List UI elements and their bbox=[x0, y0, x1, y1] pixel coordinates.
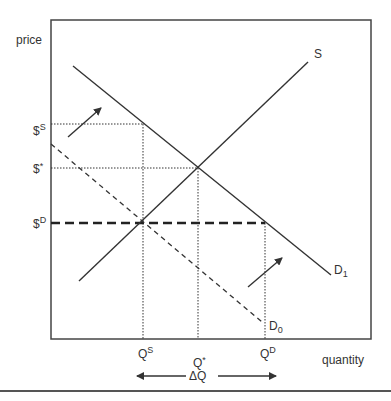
plot-frame bbox=[51, 20, 371, 339]
x-axis-label: quantity bbox=[322, 353, 364, 367]
y-axis-label: price bbox=[16, 33, 42, 47]
supply-price-label: $S bbox=[33, 122, 46, 138]
demand-price-label: $D bbox=[33, 215, 47, 231]
demand-qty-label: QD bbox=[260, 345, 276, 361]
supply-label: S bbox=[314, 47, 322, 61]
supply-demand-diagram: price quantity S D1 D0 $S $* $D QS Q* QD… bbox=[0, 0, 391, 401]
demand-d1-label: D1 bbox=[334, 263, 348, 279]
demand-curve-d0 bbox=[51, 144, 262, 322]
equilibrium-price-label: $* bbox=[33, 161, 44, 176]
demand-curve-d1 bbox=[73, 66, 331, 275]
supply-qty-label: QS bbox=[138, 345, 153, 361]
supply-curve bbox=[79, 62, 308, 281]
equilibrium-qty-label: Q* bbox=[193, 355, 206, 370]
demand-d0-label: D0 bbox=[269, 319, 283, 335]
demand-shift-arrow-upper bbox=[68, 108, 101, 137]
delta-q-label: ΔQ bbox=[189, 369, 206, 383]
